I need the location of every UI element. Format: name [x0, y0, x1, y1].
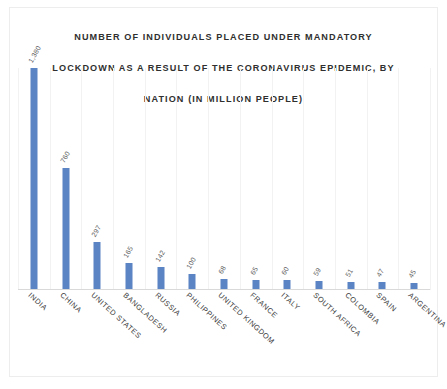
bar-rect[interactable]: [189, 274, 196, 290]
x-axis-tick-label: ARGENTINA: [407, 291, 447, 330]
x-axis-tick: INDIA: [18, 292, 50, 372]
bar-item[interactable]: 59: [303, 68, 335, 290]
bar-rect[interactable]: [125, 263, 132, 290]
plot-area: 1,38076029716514210068656059514745: [18, 68, 430, 290]
x-axis-category-labels: INDIACHINAUNITED STATESBANGLADESHRUSSIAP…: [18, 292, 430, 372]
bar-item[interactable]: 297: [81, 68, 113, 290]
x-axis-tick-label: CHINA: [58, 291, 83, 315]
x-axis-tick: SOUTH AFRICA: [303, 292, 335, 372]
x-axis-baseline: [18, 289, 430, 290]
x-axis-tick-label: ITALY: [280, 291, 303, 313]
bar-series: 1,38076029716514210068656059514745: [18, 68, 430, 290]
x-axis-tick-label: INDIA: [26, 291, 49, 313]
bar-rect[interactable]: [30, 68, 37, 290]
x-axis-tick: RUSSIA: [145, 292, 177, 372]
bar-item[interactable]: 1,380: [18, 68, 50, 290]
x-axis-tick: COLOMBIA: [335, 292, 367, 372]
bar-item[interactable]: 142: [145, 68, 177, 290]
x-axis-tick: ARGENTINA: [398, 292, 430, 372]
bar-rect[interactable]: [94, 242, 101, 290]
bar-item[interactable]: 760: [50, 68, 82, 290]
bar-item[interactable]: 100: [176, 68, 208, 290]
bar-value-label: 297: [90, 224, 102, 238]
bar-value-label: 51: [344, 267, 354, 278]
x-axis-tick-label: SPAIN: [375, 291, 399, 314]
bar-value-label: 165: [122, 245, 134, 259]
bar-value-label: 100: [185, 256, 197, 270]
bar-item[interactable]: 165: [113, 68, 145, 290]
bar-value-label: 60: [280, 266, 290, 277]
bar-item[interactable]: 47: [367, 68, 399, 290]
x-axis-tick: UNITED STATES: [81, 292, 113, 372]
chart-container: NUMBER OF INDIVIDUALS PLACED UNDER MANDA…: [0, 0, 447, 389]
bar-value-label: 47: [375, 268, 385, 279]
x-axis-tick: ITALY: [272, 292, 304, 372]
x-axis-tick: SPAIN: [367, 292, 399, 372]
bar-item[interactable]: 65: [240, 68, 272, 290]
x-axis-tick: BANGLADESH: [113, 292, 145, 372]
bar-item[interactable]: 51: [335, 68, 367, 290]
bar-rect[interactable]: [157, 267, 164, 290]
bar-item[interactable]: 45: [398, 68, 430, 290]
bar-value-label: 59: [312, 266, 322, 277]
bar-value-label: 45: [407, 268, 417, 279]
bar-item[interactable]: 68: [208, 68, 240, 290]
bar-value-label: 65: [249, 265, 259, 276]
chart-title-line-1: NUMBER OF INDIVIDUALS PLACED UNDER MANDA…: [18, 30, 429, 46]
x-axis-tick: PHILIPPINES: [176, 292, 208, 372]
x-axis-tick: FRANCE: [240, 292, 272, 372]
bar-value-label: 142: [154, 249, 166, 263]
bar-rect[interactable]: [62, 168, 69, 290]
bar-value-label: 760: [58, 150, 70, 164]
bar-item[interactable]: 60: [272, 68, 304, 290]
x-axis-tick: CHINA: [50, 292, 82, 372]
bar-value-label: 68: [217, 264, 227, 275]
x-axis-tick: UNITED KINGDOM: [208, 292, 240, 372]
gridline-vertical: [430, 68, 431, 290]
